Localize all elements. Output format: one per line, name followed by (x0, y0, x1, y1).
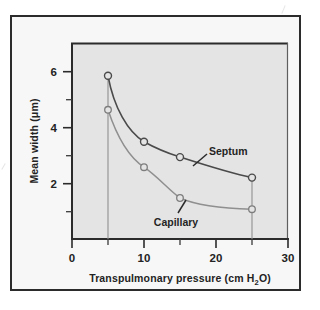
data-point-septum-5 (105, 72, 112, 79)
annotation-label-capillary: Capillary (154, 216, 199, 228)
y-axis-title-text: Mean width ( (28, 118, 40, 184)
y-tick-label-2: 2 (51, 178, 57, 190)
data-point-septum-15 (177, 154, 184, 161)
x-axis-title: Transpulmonary pressure (cm H2O) (89, 272, 271, 287)
data-point-capillary-10 (141, 164, 148, 171)
data-point-septum-25 (249, 174, 256, 181)
data-point-capillary-5 (105, 107, 112, 114)
line-chart: 6 4 2 Mean width (μm) 0 10 20 30 Transpu… (0, 0, 320, 310)
figure-root: 6 4 2 Mean width (μm) 0 10 20 30 Transpu… (0, 0, 320, 310)
y-tick-label-4: 4 (51, 122, 58, 134)
x-axis-title-before: Transpulmonary pressure (cm H (89, 272, 254, 284)
data-point-capillary-25 (249, 206, 256, 213)
x-axis-title-after: O) (259, 272, 271, 284)
x-tick-label-10: 10 (138, 252, 151, 264)
x-tick-label-30: 30 (282, 252, 295, 264)
annotation-label-septum: Septum (209, 145, 248, 157)
y-axis-title-close: ) (28, 98, 40, 102)
x-tick-label-20: 20 (210, 252, 223, 264)
y-axis-title-unit: μm (28, 102, 40, 118)
data-point-capillary-15 (177, 195, 184, 202)
y-axis-title: Mean width (μm) (28, 98, 40, 183)
y-tick-label-6: 6 (51, 66, 57, 78)
data-point-septum-10 (141, 138, 148, 145)
x-tick-label-0: 0 (69, 252, 75, 264)
